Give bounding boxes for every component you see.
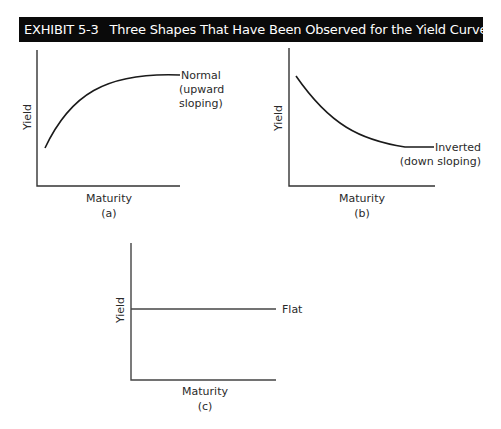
chart-a-xlabel: Maturity <box>86 192 132 205</box>
chart-a-label-3: sloping) <box>179 97 223 110</box>
chart-b-label-1: Inverted <box>435 141 481 154</box>
chart-b-label-2: (down sloping) <box>400 155 481 168</box>
chart-b-panel: (b) <box>354 207 370 220</box>
chart-c-xlabel: Maturity <box>182 385 228 398</box>
chart-b-ylabel: Yield <box>272 105 285 132</box>
chart-c-flat: Yield Maturity (c) Flat <box>114 243 303 413</box>
chart-c-panel: (c) <box>198 400 213 413</box>
chart-c-axes <box>131 243 276 380</box>
chart-a-label-2: (upward <box>179 83 224 96</box>
chart-a-panel: (a) <box>101 207 116 220</box>
chart-b-xlabel: Maturity <box>339 192 385 205</box>
chart-c-ylabel: Yield <box>114 297 127 324</box>
chart-c-label-1: Flat <box>282 303 303 316</box>
chart-a-curve <box>45 75 180 148</box>
chart-a-normal: Yield Maturity (a) Normal (upward slopin… <box>21 50 224 220</box>
chart-a-ylabel: Yield <box>21 104 34 131</box>
yield-curve-figure: Yield Maturity (a) Normal (upward slopin… <box>0 0 501 429</box>
chart-a-label-1: Normal <box>181 69 221 82</box>
chart-a-axes <box>37 50 180 186</box>
chart-b-curve <box>296 76 434 147</box>
chart-b-inverted: Yield Maturity (b) Inverted (down slopin… <box>272 48 481 220</box>
